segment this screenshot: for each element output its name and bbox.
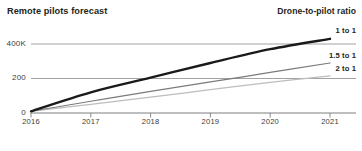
series-label: 1.5 to 1 <box>329 51 356 60</box>
x-axis-tick-label: 2016 <box>14 117 48 126</box>
series-label: 1 to 1 <box>336 26 356 35</box>
x-axis-tick-label: 2019 <box>193 117 227 126</box>
y-axis-tick-label: 0 <box>0 108 26 117</box>
x-axis-tick-label: 2020 <box>253 117 287 126</box>
series-line <box>31 76 330 111</box>
x-axis-tick-label: 2021 <box>313 117 347 126</box>
x-axis-tick-label: 2018 <box>134 117 168 126</box>
y-axis-tick-label: 400K <box>0 39 26 48</box>
line-chart-canvas <box>0 0 362 151</box>
x-axis-tick-label: 2017 <box>74 117 108 126</box>
series-line <box>31 39 330 111</box>
series-label: 2 to 1 <box>336 64 356 73</box>
y-axis-tick-label: 200 <box>0 73 26 82</box>
chart-figure: Remote pilots forecast Drone-to-pilot ra… <box>0 0 362 151</box>
data-series-lines <box>31 39 330 111</box>
